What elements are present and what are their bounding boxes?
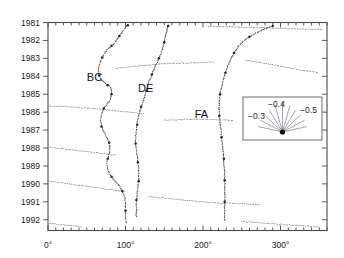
series-drift-1992 xyxy=(49,223,81,228)
legend-origin-dot xyxy=(280,129,285,134)
y-axis-tick-label: 1984 xyxy=(21,71,40,81)
series-drift-1991b xyxy=(224,202,260,205)
y-axis-tick-label: 1981 xyxy=(21,18,40,28)
series-label-fa: FA xyxy=(195,108,209,120)
series-drift-1991 xyxy=(148,196,223,204)
chart-canvas: 0°100°200°300°19811982198319841985198619… xyxy=(0,0,344,258)
series-label-de: DE xyxy=(138,82,153,94)
y-axis-tick-label: 1988 xyxy=(21,143,40,153)
y-axis-tick-label: 1989 xyxy=(21,161,40,171)
x-axis-tick-label: 300° xyxy=(272,240,290,250)
series-drift-1988 xyxy=(49,146,115,155)
y-axis-tick-label: 1987 xyxy=(21,125,40,135)
series-drift-1986 xyxy=(49,105,144,114)
y-axis-tick-label: 1983 xyxy=(21,53,40,63)
y-axis-tick-label: 1991 xyxy=(21,197,40,207)
y-axis-tick-label: 1992 xyxy=(21,215,40,225)
x-axis-tick-label: 100° xyxy=(117,240,135,250)
legend-label-right: −0.5 xyxy=(300,105,317,115)
y-axis-tick-label: 1986 xyxy=(21,107,40,117)
chart-figure: 0°100°200°300°19811982198319841985198619… xyxy=(0,0,344,258)
x-axis-tick-label: 200° xyxy=(194,240,212,250)
x-axis-tick-label: 0° xyxy=(44,240,52,250)
legend-label-top: −0.4 xyxy=(268,99,285,109)
series-drift-1992b xyxy=(241,221,318,228)
legend-label-left: −0.3 xyxy=(248,111,265,121)
y-axis-tick-label: 1982 xyxy=(21,35,40,45)
series-BC xyxy=(98,24,129,223)
series-drift-1983b xyxy=(245,60,318,73)
series-label-bc: BC xyxy=(87,71,102,83)
series-DE xyxy=(134,25,169,217)
y-axis-tick-label: 1985 xyxy=(21,89,40,99)
y-axis-tick-label: 1990 xyxy=(21,179,40,189)
series-drift-1990 xyxy=(49,180,125,192)
series-drift-1983 xyxy=(116,61,214,69)
